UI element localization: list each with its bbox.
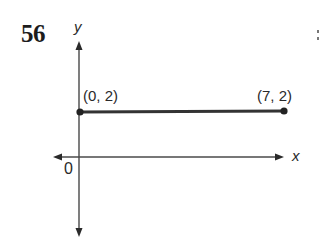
point-0-2-dot-icon [76, 108, 83, 115]
coordinate-plane [0, 0, 326, 238]
graph-figure: 56 y x 0 (0, 2) (7, 2) [0, 0, 326, 238]
x-axis [53, 154, 284, 161]
point-label-start: (0, 2) [83, 88, 118, 103]
point-label-end: (7, 2) [257, 88, 292, 103]
origin-label: 0 [64, 161, 73, 177]
margin-mark [317, 37, 319, 40]
y-axis [76, 41, 83, 237]
margin-mark [317, 30, 319, 33]
y-axis-label: y [74, 19, 82, 34]
point-7-2-dot-icon [280, 107, 287, 114]
x-axis-right-arrow-icon [275, 154, 284, 161]
x-axis-label: x [292, 148, 300, 163]
x-axis-left-arrow-icon [53, 154, 62, 161]
y-axis-down-arrow-icon [76, 228, 83, 237]
y-axis-up-arrow-icon [76, 41, 83, 50]
line-segment [76, 107, 287, 115]
problem-number: 56 [21, 21, 45, 46]
